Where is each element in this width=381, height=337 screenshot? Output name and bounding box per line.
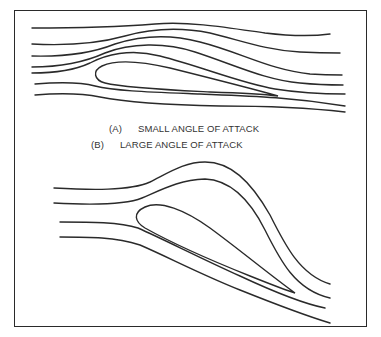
caption-a: (A)SMALL ANGLE OF ATTACK [109, 123, 259, 134]
caption-b-tag: (B) [91, 139, 104, 150]
caption-b-label: LARGE ANGLE OF ATTACK [120, 139, 243, 150]
streamline-a7 [35, 94, 345, 112]
caption-b: (B)LARGE ANGLE OF ATTACK [91, 139, 243, 150]
streamline-a3 [32, 37, 342, 75]
panel-a-small-angle [32, 23, 345, 112]
caption-a-tag: (A) [109, 123, 122, 134]
streamline-a4 [32, 45, 343, 85]
airfoil-a [96, 62, 278, 96]
streamline-b2 [54, 179, 330, 298]
panel-b-large-angle [54, 162, 330, 323]
caption-a-label: SMALL ANGLE OF ATTACK [138, 123, 259, 134]
airfoil-flow-diagram [0, 0, 381, 337]
